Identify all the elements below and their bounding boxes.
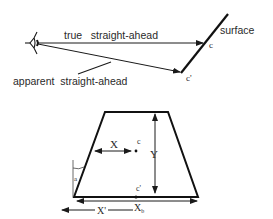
y-label: Y — [150, 148, 158, 160]
point-c-label-bottom: c — [137, 137, 141, 146]
perspective-diagram: true straight-ahead apparent straight-ah… — [0, 0, 273, 219]
point-c-prime — [134, 195, 137, 198]
x-label: X — [110, 138, 118, 150]
angle-arc — [73, 167, 84, 169]
bottom-diagram: a X c Y c' X' Xb — [62, 112, 198, 216]
point-c-label: c — [209, 40, 213, 50]
point-c — [135, 150, 138, 153]
apparent-straight-ahead-line — [38, 44, 180, 72]
surface-label: surface — [220, 24, 255, 36]
true-straight-ahead-label: true straight-ahead — [64, 29, 158, 41]
angle-label: a — [74, 175, 78, 183]
xb-label-subscript: b — [141, 208, 144, 214]
point-c-prime-label-bottom: c' — [136, 184, 142, 193]
xb-label: Xb — [134, 202, 144, 214]
apparent-straight-ahead-label: apparent straight-ahead — [13, 75, 128, 87]
eye-icon — [25, 32, 38, 54]
top-diagram: true straight-ahead apparent straight-ah… — [13, 14, 255, 87]
apparent-label-pointer — [78, 62, 111, 74]
x-prime-label: X' — [97, 205, 106, 216]
point-c-prime-label: c' — [186, 73, 192, 83]
